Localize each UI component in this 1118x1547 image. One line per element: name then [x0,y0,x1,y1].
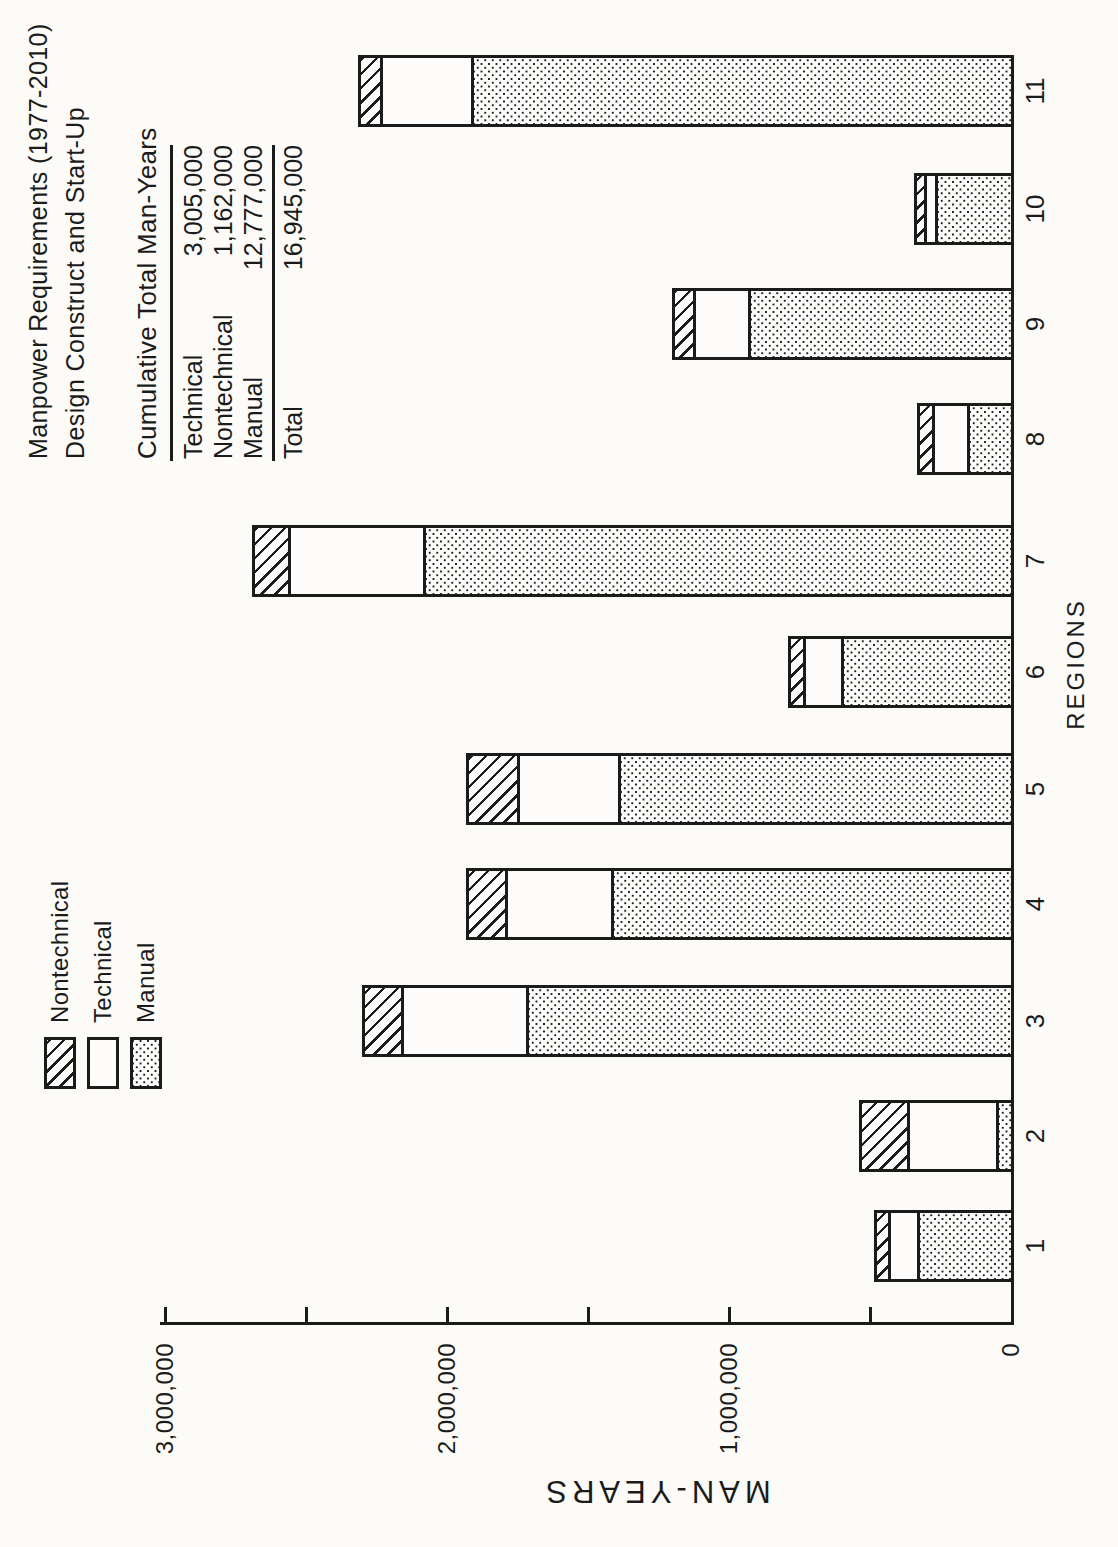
bar-region-6-nontechnical-segment [788,636,806,708]
bar-region-2-nontechnical-segment [859,1100,910,1172]
bar-region-8-manual-segment [967,403,1014,475]
bar-region-10-manual-segment [935,173,1014,245]
region-label-11: 11 [1020,45,1050,137]
bar-region-1-nontechnical-segment [874,1210,891,1282]
value-axis-tick [305,1307,308,1322]
value-axis-tick [728,1307,731,1322]
bar-region-9-technical-segment [693,288,751,360]
bar-region-5-nontechnical-segment [466,753,520,825]
bar-region-6-manual-segment [841,636,1014,708]
value-tick-label: 3,000,000 [150,1343,180,1509]
bar-region-4-technical-segment [505,868,614,940]
bar-region-9-nontechnical-segment [672,288,696,360]
bar-region-1-manual-segment [917,1210,1014,1282]
bar-region-3-technical-segment [401,985,529,1057]
bar-region-11-manual-segment [471,55,1014,127]
region-label-3: 3 [1020,975,1050,1067]
value-axis-tick [869,1307,872,1322]
bar-region-2-technical-segment [907,1100,999,1172]
x-axis-title: REGIONS [1062,514,1090,814]
bar-region-11-technical-segment [380,55,474,127]
bar-region-1-technical-segment [888,1210,920,1282]
y-axis-title: MAN-YEARS [486,1467,826,1509]
value-axis-tick [446,1307,449,1322]
bar-region-8-nontechnical-segment [917,403,935,475]
value-tick-label: 0 [996,1343,1026,1509]
bar-region-7-manual-segment [423,525,1014,597]
value-tick-label: 1,000,000 [714,1343,744,1509]
bar-region-11-nontechnical-segment [358,55,383,127]
bar-region-8-technical-segment [932,403,970,475]
value-axis-line [160,1322,1014,1325]
scanned-page: Manpower Requirements (1977-2010) Design… [0,0,1118,1547]
bar-region-5-manual-segment [618,753,1014,825]
value-axis-tick [587,1307,590,1322]
region-label-5: 5 [1020,743,1050,835]
value-tick-label: 2,000,000 [432,1343,462,1509]
bar-region-7-nontechnical-segment [252,525,291,597]
region-label-6: 6 [1020,626,1050,718]
region-label-8: 8 [1020,393,1050,485]
bar-region-10-nontechnical-segment [914,173,927,245]
region-label-4: 4 [1020,858,1050,950]
region-label-1: 1 [1020,1200,1050,1292]
region-label-9: 9 [1020,278,1050,370]
chart-canvas: Manpower Requirements (1977-2010) Design… [0,0,1118,1547]
bar-region-7-technical-segment [288,525,426,597]
region-label-2: 2 [1020,1090,1050,1182]
bar-region-3-nontechnical-segment [362,985,404,1057]
value-axis-tick [164,1307,167,1322]
bar-region-4-nontechnical-segment [466,868,508,940]
bar-region-3-manual-segment [526,985,1014,1057]
region-label-10: 10 [1020,163,1050,255]
plot-area: REGIONS MAN-YEARS 3,000,0002,000,0001,00… [0,0,1118,1547]
bar-region-5-technical-segment [517,753,621,825]
bar-region-4-manual-segment [611,868,1014,940]
bar-region-9-manual-segment [748,288,1014,360]
bar-region-6-technical-segment [803,636,844,708]
region-label-7: 7 [1020,515,1050,607]
